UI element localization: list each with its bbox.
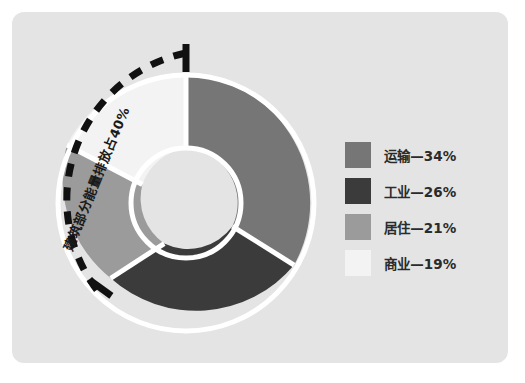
legend-item-residential[interactable]: 居住—21%	[345, 214, 485, 240]
legend-swatch-industry	[345, 178, 371, 204]
legend-item-industry[interactable]: 工业—26%	[345, 178, 485, 204]
screenshot-root: 建筑部分能量排放占40% 运输—34% 工业—26% 居住—21% 商业—19%	[0, 0, 525, 383]
legend-swatch-transport	[345, 142, 371, 168]
chart-legend: 运输—34% 工业—26% 居住—21% 商业—19%	[345, 142, 485, 286]
legend-item-transport[interactable]: 运输—34%	[345, 142, 485, 168]
legend-label-commercial: 商业—19%	[384, 253, 456, 273]
legend-swatch-commercial	[345, 250, 371, 276]
legend-item-commercial[interactable]: 商业—19%	[345, 250, 485, 276]
legend-label-transport: 运输—34%	[384, 145, 456, 165]
legend-label-industry: 工业—26%	[384, 181, 456, 201]
legend-label-residential: 居住—21%	[384, 217, 456, 237]
donut-inner-edge	[131, 148, 241, 258]
legend-swatch-residential	[345, 214, 371, 240]
